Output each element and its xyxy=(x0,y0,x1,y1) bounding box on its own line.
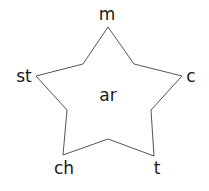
point-label-right: c xyxy=(186,68,195,85)
point-label-left: st xyxy=(16,68,32,85)
point-label-top: m xyxy=(99,6,116,23)
point-label-bottom-right: t xyxy=(154,160,161,177)
center-label: ar xyxy=(99,87,116,104)
word-star-diagram: m c t ch st ar xyxy=(0,0,209,191)
point-label-bottom-left: ch xyxy=(54,160,74,177)
